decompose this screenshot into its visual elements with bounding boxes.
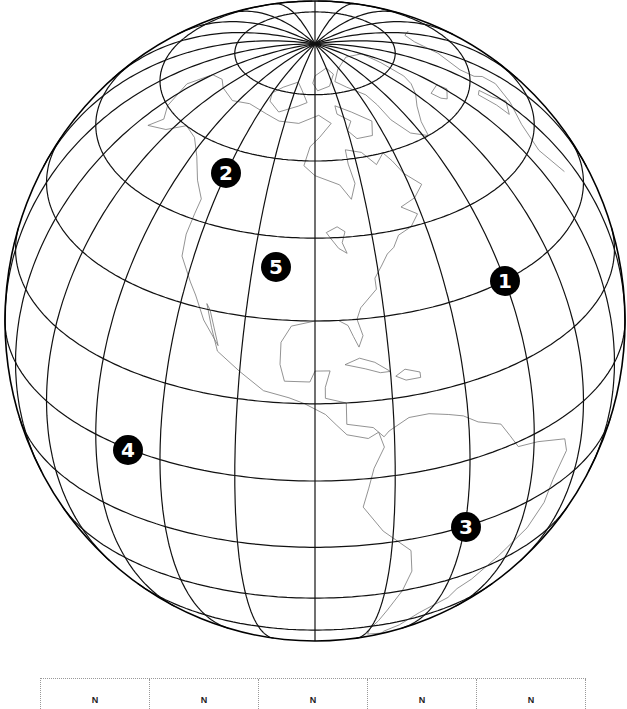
answer-cell-2[interactable]: N bbox=[150, 679, 259, 709]
coastline bbox=[431, 85, 447, 99]
answer-cell-4[interactable]: N bbox=[368, 679, 477, 709]
coastline bbox=[326, 227, 347, 254]
marker-2[interactable]: 2 bbox=[211, 158, 241, 188]
coastline bbox=[270, 82, 307, 112]
marker-4[interactable]: 4 bbox=[113, 435, 143, 465]
coastline bbox=[396, 369, 421, 380]
meridian-line bbox=[315, 4, 355, 44]
coastline bbox=[335, 54, 429, 136]
answer-cell-5[interactable]: N bbox=[477, 679, 586, 709]
coastline bbox=[335, 106, 373, 139]
meridian-line bbox=[96, 44, 315, 606]
coastline bbox=[345, 358, 390, 373]
marker-5[interactable]: 5 bbox=[261, 252, 291, 282]
graticule bbox=[5, 1, 625, 641]
answer-cell-1[interactable]: N bbox=[41, 679, 150, 709]
answer-table: N N N N N bbox=[40, 678, 586, 709]
globe-map bbox=[0, 0, 627, 660]
meridian-line bbox=[315, 44, 614, 472]
answer-cell-3[interactable]: N bbox=[259, 679, 368, 709]
meridian-line bbox=[275, 4, 315, 44]
marker-3[interactable]: 3 bbox=[451, 512, 481, 542]
coastline bbox=[148, 75, 567, 634]
marker-1[interactable]: 1 bbox=[490, 266, 520, 296]
coastlines bbox=[148, 31, 567, 634]
